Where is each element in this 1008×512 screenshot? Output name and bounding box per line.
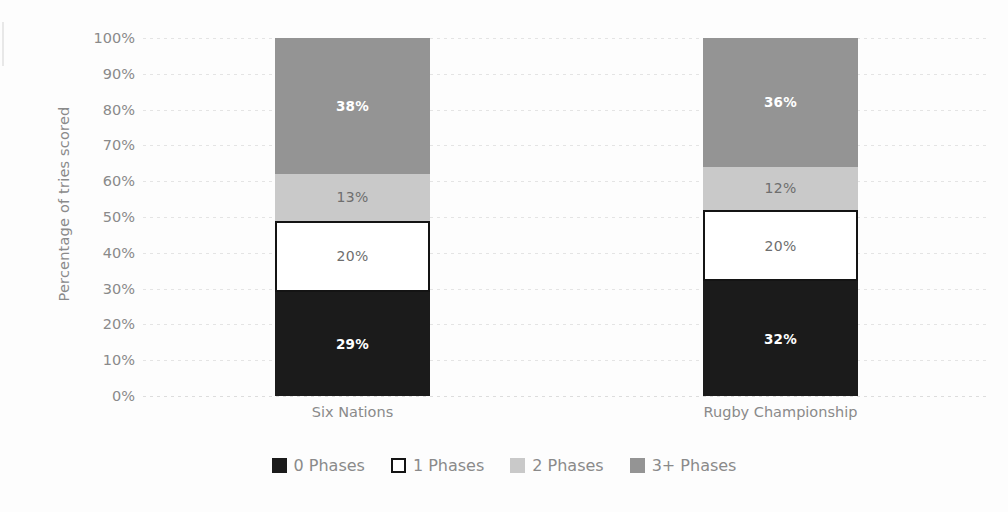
plot-area: 29%20%13%38%32%20%12%36% <box>143 38 988 396</box>
bar-segment-data-label: 20% <box>764 238 796 254</box>
gridline-90 <box>143 74 988 75</box>
y-tick-label: 50% <box>103 209 135 225</box>
bar-segment-data-label: 12% <box>764 180 796 196</box>
gridline-80 <box>143 110 988 111</box>
bar-rugby-championship[interactable]: 32%20%12%36% <box>703 38 858 396</box>
y-tick-label: 100% <box>94 30 135 46</box>
legend-swatch-icon <box>630 458 645 473</box>
bar-segment-2-phases[interactable]: 13% <box>275 174 430 221</box>
legend-label: 0 Phases <box>294 456 365 475</box>
legend-label: 1 Phases <box>413 456 484 475</box>
gridline-30 <box>143 289 988 290</box>
bar-segment-data-label: 36% <box>764 94 797 110</box>
gridline-70 <box>143 145 988 146</box>
y-tick-label: 20% <box>103 316 135 332</box>
y-tick-label: 40% <box>103 245 135 261</box>
bar-segment-1-phases[interactable]: 20% <box>703 210 858 282</box>
legend-item-1-phases[interactable]: 1 Phases <box>391 456 484 475</box>
bar-segment-3-phases[interactable]: 36% <box>703 38 858 167</box>
gridline-20 <box>143 324 988 325</box>
y-tick-label: 60% <box>103 173 135 189</box>
chart-legend: 0 Phases1 Phases2 Phases3+ Phases <box>0 456 1008 475</box>
chart-figure: Percentage of tries scored 0%10%20%30%40… <box>0 0 1008 512</box>
legend-swatch-icon <box>272 458 287 473</box>
legend-swatch-icon <box>391 458 406 473</box>
bar-segment-0-phases[interactable]: 29% <box>275 292 430 396</box>
bar-segment-1-phases[interactable]: 20% <box>275 221 430 293</box>
y-tick-label: 30% <box>103 281 135 297</box>
legend-label: 2 Phases <box>532 456 603 475</box>
bar-segment-data-label: 32% <box>764 331 797 347</box>
bar-six-nations[interactable]: 29%20%13%38% <box>275 38 430 396</box>
y-axis-tick-labels: 0%10%20%30%40%50%60%70%80%90%100% <box>0 38 143 396</box>
legend-item-3-phases[interactable]: 3+ Phases <box>630 456 737 475</box>
y-tick-label: 0% <box>112 388 135 404</box>
gridline-40 <box>143 253 988 254</box>
gridline-60 <box>143 181 988 182</box>
legend-label: 3+ Phases <box>652 456 737 475</box>
x-axis-label-rugby-championship: Rugby Championship <box>704 404 858 420</box>
y-tick-label: 70% <box>103 137 135 153</box>
gridline-0 <box>143 396 988 397</box>
bar-segment-data-label: 20% <box>336 248 368 264</box>
legend-item-2-phases[interactable]: 2 Phases <box>510 456 603 475</box>
gridline-10 <box>143 360 988 361</box>
bar-segment-2-phases[interactable]: 12% <box>703 167 858 210</box>
legend-item-0-phases[interactable]: 0 Phases <box>272 456 365 475</box>
bar-segment-data-label: 29% <box>336 336 369 352</box>
y-tick-label: 10% <box>103 352 135 368</box>
bar-segment-data-label: 13% <box>336 189 368 205</box>
y-tick-label: 80% <box>103 102 135 118</box>
y-tick-label: 90% <box>103 66 135 82</box>
legend-swatch-icon <box>510 458 525 473</box>
gridline-50 <box>143 217 988 218</box>
x-axis-category-labels: Six NationsRugby Championship <box>143 404 988 430</box>
gridline-100 <box>143 38 988 39</box>
bar-segment-data-label: 38% <box>336 98 369 114</box>
bar-segment-0-phases[interactable]: 32% <box>703 281 858 396</box>
bar-segment-3-phases[interactable]: 38% <box>275 38 430 174</box>
x-axis-label-six-nations: Six Nations <box>312 404 394 420</box>
